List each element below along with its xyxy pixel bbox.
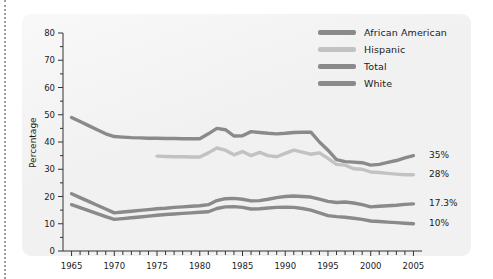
legend-swatch-total: [318, 64, 356, 69]
x-axis-tick-label: 1970: [94, 261, 134, 271]
y-axis-tick-label: 30: [21, 164, 55, 174]
y-axis-tick-label: 20: [21, 192, 55, 202]
chart-page: 01020304050607080 1965197019751980198519…: [0, 0, 493, 279]
legend-item-african-american[interactable]: African American: [318, 24, 468, 41]
series-line-hispanic: [157, 148, 413, 175]
legend-swatch-african-american: [318, 30, 356, 35]
x-axis-tick-label: 2005: [393, 261, 433, 271]
legend-item-hispanic[interactable]: Hispanic: [318, 41, 468, 58]
x-axis-tick-label: 1975: [137, 261, 177, 271]
legend-label-white: White: [364, 78, 392, 89]
end-label-african-american: 35%: [429, 150, 449, 160]
y-axis-tick-label: 50: [21, 110, 55, 120]
y-axis-tick-label: 40: [21, 137, 55, 147]
x-axis-tick-label: 1985: [223, 261, 263, 271]
x-axis-tick-label: 1980: [180, 261, 220, 271]
series-line-white: [72, 205, 414, 224]
y-axis-tick-label: 60: [21, 83, 55, 93]
x-axis-tick-label: 1990: [265, 261, 305, 271]
chart-legend: African American Hispanic Total White: [318, 24, 468, 92]
legend-swatch-white: [318, 81, 356, 86]
series-layer: [72, 117, 414, 223]
series-line-african-american: [72, 117, 414, 165]
legend-item-total[interactable]: Total: [318, 58, 468, 75]
page-margin-rule: [4, 0, 6, 279]
y-axis-title: Percentage: [28, 117, 38, 168]
series-line-total: [72, 194, 414, 213]
legend-label-african-american: African American: [364, 27, 447, 38]
legend-item-white[interactable]: White: [318, 75, 468, 92]
end-label-hispanic: 28%: [429, 169, 449, 179]
end-label-total: 17.3%: [429, 198, 458, 208]
legend-swatch-hispanic: [318, 47, 356, 52]
end-label-white: 10%: [429, 218, 449, 228]
x-axis-tick-label: 1995: [308, 261, 348, 271]
x-axis-tick-label: 2000: [351, 261, 391, 271]
y-axis-tick-label: 0: [21, 246, 55, 256]
legend-label-total: Total: [364, 61, 387, 72]
y-axis-tick-label: 10: [21, 219, 55, 229]
x-axis-tick-label: 1965: [52, 261, 92, 271]
y-axis-tick-label: 70: [21, 55, 55, 65]
legend-label-hispanic: Hispanic: [364, 44, 405, 55]
y-axis-tick-label: 80: [21, 28, 55, 38]
